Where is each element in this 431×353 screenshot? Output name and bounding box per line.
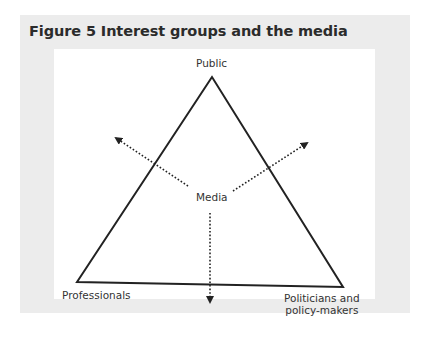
- node-media-label: Media: [196, 191, 228, 203]
- node-professionals-label: Professionals: [62, 289, 131, 301]
- triangle-shape: [77, 77, 343, 287]
- node-public-label: Public: [196, 57, 227, 69]
- arrow-to-right: [233, 143, 307, 191]
- node-politicians-line1: Politicians and: [284, 292, 360, 304]
- node-politicians-label: Politicians and policy-makers: [284, 292, 360, 316]
- arrow-to-left: [116, 138, 188, 186]
- node-politicians-line2: policy-makers: [284, 304, 360, 316]
